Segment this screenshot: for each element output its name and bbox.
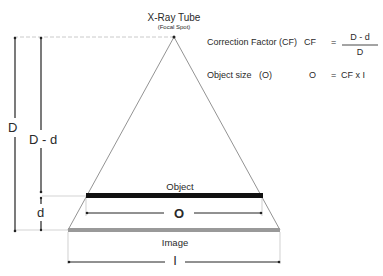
image-label: Image bbox=[150, 237, 200, 248]
focal-spot-dot bbox=[173, 36, 176, 39]
d-label: d bbox=[37, 205, 44, 220]
correction-factor-numerator: D - d bbox=[342, 32, 378, 42]
object-size-symbol: O bbox=[309, 70, 316, 80]
diagram-geometry bbox=[0, 0, 383, 276]
image-size-label: I bbox=[165, 253, 185, 268]
D-label: D bbox=[8, 120, 17, 135]
object-bar bbox=[86, 193, 263, 198]
beam-left-edge bbox=[68, 37, 174, 230]
beam-right-edge bbox=[174, 37, 280, 230]
object-size-expression: CF x I bbox=[341, 70, 365, 80]
object-size-name: Object size (O) bbox=[207, 70, 272, 80]
correction-factor-equals: = bbox=[331, 37, 336, 47]
correction-factor-denominator: D bbox=[342, 47, 378, 57]
correction-factor-symbol: CF bbox=[304, 37, 316, 47]
D-minus-d-label: D - d bbox=[29, 132, 57, 147]
object-size-label: O bbox=[164, 206, 194, 221]
magnification-diagram: X-Ray Tube (Focal Spot) D D - d d Object… bbox=[0, 0, 383, 276]
object-size-equals: = bbox=[331, 70, 336, 80]
xray-tube-label: X-Ray Tube bbox=[130, 12, 218, 23]
object-label: Object bbox=[150, 181, 210, 192]
focal-spot-label: (Focal Spot) bbox=[130, 24, 218, 30]
correction-factor-name: Correction Factor (CF) bbox=[207, 37, 297, 47]
image-bar bbox=[68, 228, 280, 232]
